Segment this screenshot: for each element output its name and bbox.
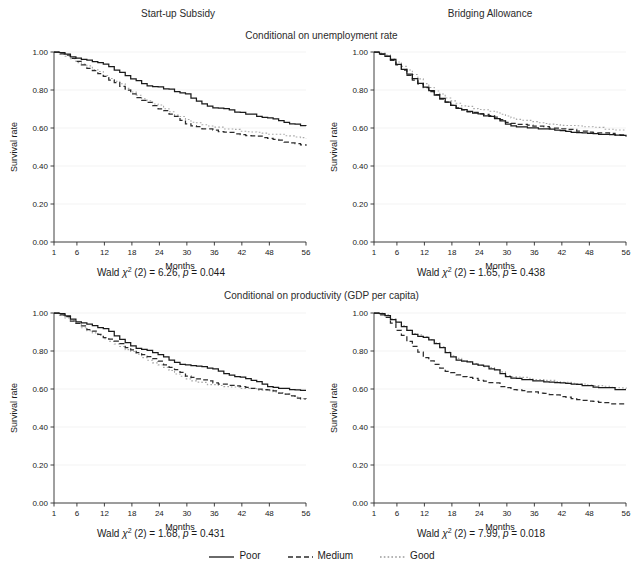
x-tick-label: 24 bbox=[475, 248, 484, 257]
y-axis-label: Survival rate bbox=[9, 383, 19, 433]
x-tick-label: 42 bbox=[237, 509, 246, 518]
wald-middle: (2) = 1.65, bbox=[452, 267, 503, 278]
y-tick-label: 0.00 bbox=[352, 499, 368, 508]
y-tick-label: 0.80 bbox=[352, 347, 368, 356]
x-tick-label: 1 bbox=[52, 248, 57, 257]
y-tick-label: 0.60 bbox=[32, 124, 48, 133]
survival-curve-medium bbox=[54, 52, 306, 146]
y-tick-label: 0.00 bbox=[352, 238, 368, 247]
p-value: = 0.044 bbox=[189, 267, 225, 278]
wald-prefix: Wald bbox=[417, 267, 442, 278]
y-tick-label: 0.40 bbox=[352, 162, 368, 171]
x-tick-label: 56 bbox=[302, 509, 311, 518]
survival-curve-medium bbox=[374, 313, 626, 404]
wald-middle: (2) = 1.68, bbox=[132, 528, 183, 539]
y-tick-label: 0.40 bbox=[352, 423, 368, 432]
legend-label: Medium bbox=[318, 550, 354, 561]
y-tick-label: 0.60 bbox=[32, 385, 48, 394]
legend: PoorMediumGood bbox=[0, 550, 643, 561]
y-tick-label: 0.80 bbox=[32, 86, 48, 95]
x-tick-label: 48 bbox=[265, 509, 274, 518]
column-title-bridging-allowance: Bridging Allowance bbox=[400, 8, 580, 19]
x-tick-label: 24 bbox=[475, 509, 484, 518]
x-tick-label: 30 bbox=[502, 509, 511, 518]
x-tick-label: 30 bbox=[502, 248, 511, 257]
survival-curve-good bbox=[54, 52, 306, 138]
x-tick-label: 6 bbox=[395, 248, 400, 257]
x-tick-label: 1 bbox=[372, 509, 377, 518]
column-title-start-up-subsidy: Start-up Subsidy bbox=[88, 8, 268, 19]
x-tick-label: 24 bbox=[155, 248, 164, 257]
x-tick-label: 12 bbox=[100, 248, 109, 257]
wald-statistic-bottom-left: Wald χ2 (2) = 1.68, p = 0.431 bbox=[6, 527, 316, 539]
survival-curves-figure: Start-up Subsidy Bridging Allowance Cond… bbox=[0, 0, 643, 573]
x-tick-label: 12 bbox=[100, 509, 109, 518]
y-tick-label: 0.20 bbox=[32, 200, 48, 209]
x-tick-label: 56 bbox=[622, 248, 631, 257]
survival-curve-medium bbox=[374, 52, 626, 136]
y-tick-label: 0.00 bbox=[32, 499, 48, 508]
x-tick-label: 36 bbox=[530, 248, 539, 257]
legend-key-solid-icon bbox=[208, 552, 234, 560]
panel-bottom-left: 0.000.200.400.600.801.001612182430364248… bbox=[6, 305, 316, 545]
plot-area-bottom-left: 0.000.200.400.600.801.001612182430364248… bbox=[6, 305, 316, 545]
row-subtitle-productivity: Conditional on productivity (GDP per cap… bbox=[0, 290, 643, 301]
legend-label: Good bbox=[410, 550, 434, 561]
y-tick-label: 0.60 bbox=[352, 124, 368, 133]
wald-prefix: Wald bbox=[97, 267, 122, 278]
x-tick-label: 24 bbox=[155, 509, 164, 518]
x-tick-label: 42 bbox=[237, 248, 246, 257]
y-tick-label: 0.00 bbox=[32, 238, 48, 247]
wald-statistic-bottom-right: Wald χ2 (2) = 7.99, p = 0.018 bbox=[326, 527, 636, 539]
y-axis-label: Survival rate bbox=[329, 122, 339, 172]
y-tick-label: 1.00 bbox=[32, 309, 48, 318]
y-axis-label: Survival rate bbox=[329, 383, 339, 433]
x-tick-label: 6 bbox=[75, 248, 80, 257]
x-tick-label: 30 bbox=[182, 248, 191, 257]
wald-middle: (2) = 7.99, bbox=[452, 528, 503, 539]
survival-curve-poor bbox=[54, 52, 306, 126]
x-tick-label: 42 bbox=[557, 248, 566, 257]
legend-item-medium: Medium bbox=[287, 550, 354, 561]
y-axis-label: Survival rate bbox=[9, 122, 19, 172]
survival-curve-poor bbox=[374, 52, 626, 136]
p-value: = 0.018 bbox=[509, 528, 545, 539]
x-tick-label: 1 bbox=[372, 248, 377, 257]
legend-key-dashed-icon bbox=[287, 552, 313, 560]
x-tick-label: 48 bbox=[265, 248, 274, 257]
wald-prefix: Wald bbox=[97, 528, 122, 539]
x-tick-label: 18 bbox=[127, 248, 136, 257]
y-tick-label: 0.80 bbox=[352, 86, 368, 95]
survival-curve-poor bbox=[54, 313, 306, 390]
x-tick-label: 12 bbox=[420, 509, 429, 518]
plot-area-top-right: 0.000.200.400.600.801.001612182430364248… bbox=[326, 44, 636, 284]
x-tick-label: 36 bbox=[530, 509, 539, 518]
legend-key-dotted-icon bbox=[379, 552, 405, 560]
legend-label: Poor bbox=[239, 550, 260, 561]
plot-area-bottom-right: 0.000.200.400.600.801.001612182430364248… bbox=[326, 305, 636, 545]
x-tick-label: 18 bbox=[127, 509, 136, 518]
y-tick-label: 0.40 bbox=[32, 423, 48, 432]
x-tick-label: 36 bbox=[210, 509, 219, 518]
y-tick-label: 0.20 bbox=[32, 461, 48, 470]
panel-bottom-right: 0.000.200.400.600.801.001612182430364248… bbox=[326, 305, 636, 545]
row-subtitle-unemployment-rate: Conditional on unemployment rate bbox=[0, 30, 643, 41]
y-tick-label: 1.00 bbox=[352, 309, 368, 318]
x-tick-label: 42 bbox=[557, 509, 566, 518]
x-tick-label: 48 bbox=[585, 509, 594, 518]
p-value: = 0.431 bbox=[189, 528, 225, 539]
x-tick-label: 56 bbox=[302, 248, 311, 257]
wald-prefix: Wald bbox=[417, 528, 442, 539]
y-tick-label: 0.20 bbox=[352, 461, 368, 470]
y-tick-label: 0.80 bbox=[32, 347, 48, 356]
y-tick-label: 1.00 bbox=[352, 48, 368, 57]
wald-middle: (2) = 6.26, bbox=[132, 267, 183, 278]
x-tick-label: 48 bbox=[585, 248, 594, 257]
p-value: = 0.438 bbox=[509, 267, 545, 278]
y-tick-label: 0.40 bbox=[32, 162, 48, 171]
x-tick-label: 30 bbox=[182, 509, 191, 518]
x-tick-label: 18 bbox=[447, 509, 456, 518]
x-tick-label: 18 bbox=[447, 248, 456, 257]
legend-item-poor: Poor bbox=[208, 550, 260, 561]
wald-statistic-top-right: Wald χ2 (2) = 1.65, p = 0.438 bbox=[326, 266, 636, 278]
